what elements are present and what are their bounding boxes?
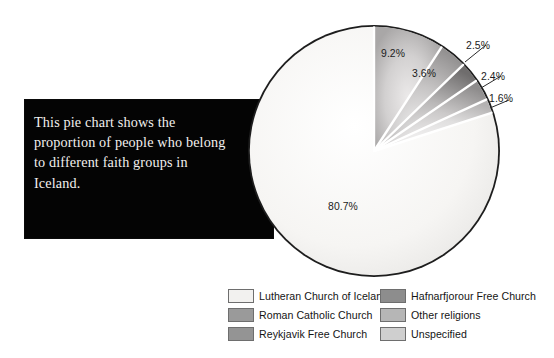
- legend-swatch-icon: [380, 308, 406, 322]
- legend-swatch-icon: [380, 327, 406, 341]
- chart-legend: Lutheran Church of Iceland Hafnarfjorour…: [228, 286, 550, 343]
- pie-chart: [243, 18, 511, 286]
- legend-item-unspecified[interactable]: Unspecified: [380, 324, 550, 343]
- legend-item-other-religions[interactable]: Other religions: [380, 305, 550, 324]
- legend-label: Roman Catholic Church: [259, 309, 373, 321]
- legend-label: Reykjavik Free Church: [259, 328, 367, 340]
- legend-label: Other religions: [411, 309, 481, 321]
- legend-swatch-icon: [228, 289, 254, 303]
- caption-text: This pie chart shows the proportion of p…: [34, 112, 234, 193]
- legend-label: Hafnarfjorour Free Church: [411, 290, 536, 302]
- figure-canvas: This pie chart shows the proportion of p…: [0, 0, 554, 358]
- pie-label-roman-catholic: 9.2%: [381, 48, 405, 59]
- legend-item-hafnarfjorour-free-church[interactable]: Hafnarfjorour Free Church: [380, 286, 550, 305]
- legend-item-lutheran-church-of-iceland[interactable]: Lutheran Church of Iceland: [228, 286, 380, 305]
- pie-label-other-religions: 2.4%: [481, 71, 505, 82]
- legend-item-roman-catholic-church[interactable]: Roman Catholic Church: [228, 305, 380, 324]
- pie-chart-svg: [243, 18, 511, 286]
- legend-swatch-icon: [228, 308, 254, 322]
- pie-label-unspecified: 1.6%: [489, 93, 513, 104]
- pie-label-lutheran-church: 80.7%: [328, 201, 358, 212]
- legend-label: Lutheran Church of Iceland: [259, 290, 388, 302]
- pie-label-hafnarfjorour-free-church: 2.5%: [466, 40, 490, 51]
- legend-item-reykjavik-free-church[interactable]: Reykjavik Free Church: [228, 324, 380, 343]
- legend-label: Unspecified: [411, 328, 467, 340]
- legend-swatch-icon: [380, 289, 406, 303]
- pie-label-reykjavik-free-church: 3.6%: [412, 68, 436, 79]
- legend-swatch-icon: [228, 327, 254, 341]
